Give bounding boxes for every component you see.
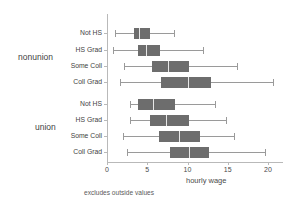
box-iqr [150,115,189,126]
whisker-cap-low [130,101,131,108]
median-line [146,45,147,56]
y-axis-label-nonunion-hs-grad: HS Grad [42,46,102,53]
whisker-cap-high [237,63,238,70]
whisker-high [211,82,273,83]
whisker-high [189,66,236,67]
whisker-low [130,120,150,121]
boxplot-union-some-coll [107,131,292,142]
chart-footnote: excludes outside values [84,189,154,196]
x-tick-label-5: 5 [145,166,149,173]
y-axis-label-union-not-hs: Not HS [42,100,102,107]
whisker-low [124,66,152,67]
boxplot-union-coll-grad [107,147,292,158]
x-tick-label-15: 15 [224,166,232,173]
y-axis-label-nonunion-some-coll: Some Coll [42,62,102,69]
whisker-cap-high [174,30,175,37]
whisker-cap-low [130,117,131,124]
x-tick-15 [228,162,229,165]
whisker-low [115,33,134,34]
y-axis-label-union-some-coll: Some Coll [42,132,102,139]
boxplot-union-hs-grad [107,115,292,126]
whisker-high [150,33,173,34]
boxplot-nonunion-some-coll [107,61,292,72]
median-line [168,61,169,72]
box-iqr [152,61,189,72]
whisker-low [130,104,137,105]
whisker-cap-high [273,79,274,86]
boxplot-nonunion-coll-grad [107,77,292,88]
box-iqr [138,99,176,110]
boxplot-union-not-hs [107,99,292,110]
whisker-cap-high [203,47,204,54]
plot-area: 05101520 [107,14,292,162]
x-axis-title: hourly wage [186,176,226,185]
x-tick-label-0: 0 [105,166,109,173]
x-tick-label-20: 20 [264,166,272,173]
group-label-nonunion: nonunion [18,52,53,62]
x-tick-0 [107,162,108,165]
whisker-cap-high [265,149,266,156]
whisker-high [209,152,265,153]
median-line [139,28,140,39]
x-tick-label-10: 10 [184,166,192,173]
x-tick-10 [188,162,189,165]
y-axis-label-union-coll-grad: Coll Grad [42,148,102,155]
whisker-low [127,152,170,153]
whisker-low [113,50,138,51]
boxplot-nonunion-not-hs [107,28,292,39]
whisker-cap-low [124,63,125,70]
x-axis-line [107,162,283,163]
whisker-cap-low [120,79,121,86]
y-axis-label-nonunion-coll-grad: Coll Grad [42,78,102,85]
whisker-cap-high [215,101,216,108]
x-tick-20 [268,162,269,165]
median-line [153,99,154,110]
median-line [189,147,190,158]
x-tick-5 [147,162,148,165]
whisker-cap-high [234,133,235,140]
whisker-high [200,136,235,137]
box-iqr [161,77,211,88]
box-iqr [134,28,151,39]
group-label-union: union [35,122,56,132]
whisker-cap-low [123,133,124,140]
median-line [166,115,167,126]
whisker-cap-low [127,149,128,156]
y-axis-label-union-hs-grad: HS Grad [42,116,102,123]
whisker-cap-high [226,117,227,124]
whisker-high [189,120,226,121]
whisker-cap-low [115,30,116,37]
y-axis-label-nonunion-not-hs: Not HS [42,29,102,36]
whisker-high [175,104,214,105]
whisker-low [123,136,159,137]
median-line [179,131,180,142]
whisker-low [120,82,161,83]
boxplot-nonunion-hs-grad [107,45,292,56]
whisker-high [160,50,203,51]
median-line [188,77,189,88]
chart-canvas: nonunion union Not HSHS GradSome CollCol… [0,0,299,203]
whisker-cap-low [113,47,114,54]
box-iqr [138,45,161,56]
